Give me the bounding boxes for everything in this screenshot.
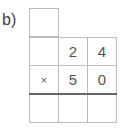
problem-label: b) [2,11,16,29]
multiplicand-tens-digit: 2 [58,37,88,66]
answer-hundreds-cell[interactable] [29,94,59,123]
multiplier-tens-digit: 5 [58,65,88,94]
multiplicand-ones-digit: 4 [87,37,117,66]
grid-cell-r1-c1 [29,37,59,66]
multiplier-ones-digit: 0 [87,65,117,94]
multiply-sign: × [29,65,59,94]
answer-divider-line [29,93,117,95]
answer-tens-cell[interactable] [58,94,88,123]
answer-ones-cell[interactable] [87,94,117,123]
carry-box[interactable] [29,8,59,37]
